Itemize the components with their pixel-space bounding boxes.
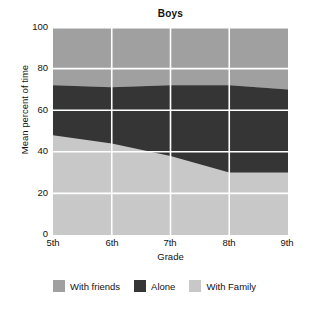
- chart-title: Boys: [53, 8, 288, 19]
- legend-swatch-with-friends: [53, 280, 65, 292]
- x-tick-label-6th: 6th: [95, 237, 129, 248]
- legend-item-alone: Alone: [134, 280, 175, 292]
- y-tick-label-100: 100: [18, 21, 48, 32]
- legend-label-with-friends: With friends: [70, 281, 120, 292]
- chart-figure: Boys 100 80 60 40 20 0: [0, 0, 309, 314]
- x-tick-label-5th: 5th: [36, 237, 70, 248]
- plot-area: [53, 27, 288, 235]
- legend-item-with-family: With Family: [189, 280, 256, 292]
- x-tick-label-8th: 8th: [212, 237, 246, 248]
- chart-legend: With friends Alone With Family: [0, 280, 309, 292]
- x-axis-label: Grade: [53, 251, 288, 262]
- x-tick-label-7th: 7th: [153, 237, 187, 248]
- legend-label-with-family: With Family: [206, 281, 256, 292]
- legend-swatch-alone: [134, 280, 146, 292]
- x-tick-label-9th: 9th: [270, 237, 304, 248]
- stacked-area-plot: [53, 27, 288, 235]
- legend-item-with-friends: With friends: [53, 280, 120, 292]
- legend-label-alone: Alone: [151, 281, 175, 292]
- y-axis-label: Mean percent of time: [19, 40, 30, 180]
- y-tick-label-20: 20: [18, 187, 48, 198]
- legend-swatch-with-family: [189, 280, 201, 292]
